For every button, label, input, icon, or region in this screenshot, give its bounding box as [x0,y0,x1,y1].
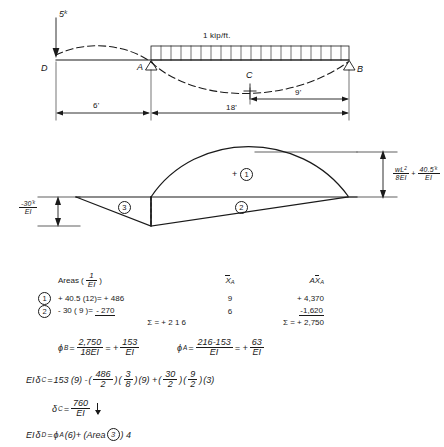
header-areas: Areas ( 1 EI ) [56,272,208,292]
header-tag [36,272,56,292]
table-sum-row: Σ = + 2 1 6 Σ = + 2,750 [36,318,326,327]
point-load-arrow-5k [53,18,60,58]
region-tag-1: 1 [240,168,253,181]
mei-triangle-region2 [151,197,348,226]
equation-delta-c-result: δC = 760 EI [52,399,98,419]
node-label-d: D [41,63,48,73]
dim-18ft [151,111,349,116]
region-tag-3: 3 [107,428,120,441]
sum-axa-cell: Σ = + 2,750 [252,318,326,327]
equation-phi-a: ϕA = 216-153 EI = + 63 EI [177,338,265,358]
mei-left-dimension-label: -30'k EI [18,200,38,216]
distributed-load-box [151,46,349,60]
region-tag-2: 2 [235,201,248,214]
sum-area-cell: Σ = + 2 1 6 [56,318,208,327]
table-row: 2 - 30 ( 9 )= - 270 6 -1,620 [36,305,326,318]
mei-left-dimension [38,196,80,227]
row-axa-cell: + 4,370 [252,292,326,305]
equation-delta-d: EIδD = ϕA (6)+ (Area 3 ) 4 [26,428,131,441]
row-tag-cell: 1 [36,292,56,305]
row-xa-cell: 9 [208,292,252,305]
mei-region2-label: 2 [235,201,248,214]
row-area-cell: + 40.5 (12)= + 486 [56,292,208,305]
dim-label-6ft: 6' [93,101,99,110]
row-tag-cell: 2 [36,305,56,318]
sum-spacer [36,318,56,327]
region-tag-2: 2 [38,305,51,318]
dim-label-9ft: 9' [295,88,301,97]
deflected-shape-curve [56,46,348,94]
equation-delta-c-work: EI δC = 153 (9) - ( 486 2 ) ( 3 8 ) (9) … [26,370,214,390]
mei-region3-label: 3 [118,201,131,214]
mei-right-dimension-label: wL2 8EI + 40.5'k EI [392,166,441,182]
support-pin-b [344,61,355,70]
region-tag-1: 1 [38,292,51,305]
region-tag-3: 3 [118,201,131,214]
downward-arrow-icon [97,403,98,414]
dimension-extension-lines [56,62,349,120]
row-area-cell: - 30 ( 9 )= - 270 [56,305,208,318]
mei-triangle-region3 [76,197,151,226]
areas-calculation-table: Areas ( 1 EI ) XA AXA 1 [36,272,326,327]
distributed-load-label: 1 kip/ft. [203,31,231,40]
equation-phi-b: ϕB = 2,750 18EI = + 153 EI [58,338,140,358]
dim-label-18ft: 18' [226,103,237,112]
table-header-row: Areas ( 1 EI ) XA AXA [36,272,326,292]
dim-9ft [250,97,349,102]
row-xa-cell: 6 [208,305,252,318]
row-axa-cell: -1,620 [252,305,326,318]
node-label-b: B [357,64,363,74]
dim-6ft [56,111,150,116]
node-label-c: C [246,70,253,80]
header-axa: AXA [252,272,326,292]
mei-region1-label: + 1 [232,168,253,181]
table-row: 1 + 40.5 (12)= + 486 9 + 4,370 [36,292,326,305]
mei-right-dimension [348,150,397,199]
header-xa: XA [208,272,252,292]
figure-page: 5k 1 kip/ft. D A B C 6' 18' 9' + 1 2 3 w… [0,0,444,447]
node-label-a: A [137,62,143,72]
sum-spacer-2 [208,318,252,327]
point-load-label: 5k [59,8,67,19]
